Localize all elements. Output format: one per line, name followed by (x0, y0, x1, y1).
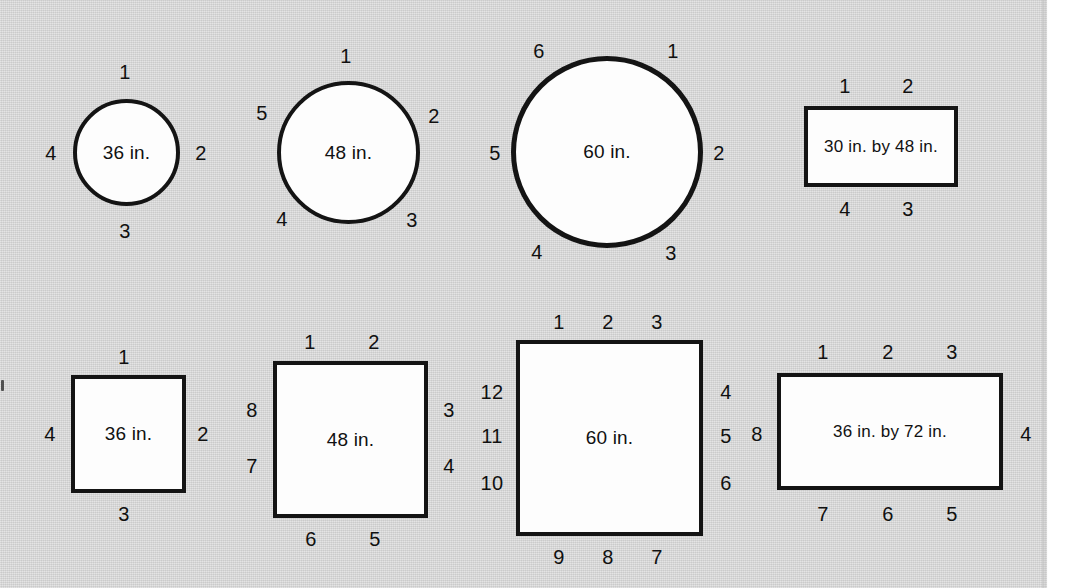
seat-number: 4 (531, 242, 542, 262)
seat-number: 2 (602, 312, 613, 332)
seat-number: 5 (489, 143, 500, 163)
seat-number: 4 (720, 382, 731, 402)
table-size-label: 60 in. (520, 428, 699, 449)
seat-number: 1 (817, 342, 828, 362)
seat-number: 7 (246, 456, 257, 476)
table-size-label: 60 in. (516, 142, 698, 163)
seat-number: 2 (428, 106, 439, 126)
seat-number: 3 (651, 312, 662, 332)
seat-number: 4 (276, 209, 287, 229)
diagram-page: 36 in. 1 2 3 4 48 in. 1 2 3 4 5 60 in. 1… (0, 0, 1074, 588)
seat-number: 3 (119, 221, 130, 241)
seat-number: 11 (481, 426, 502, 446)
seat-number: 7 (817, 504, 828, 524)
seat-number: 2 (713, 143, 724, 163)
seat-number: 6 (305, 529, 316, 549)
table-shape-round-36: 36 in. (73, 99, 180, 206)
table-shape-round-48: 48 in. (277, 81, 420, 224)
seat-number: 2 (882, 342, 893, 362)
seat-number: 4 (443, 456, 454, 476)
paper-edge-shadow (1042, 0, 1048, 588)
seat-number: 1 (119, 62, 130, 82)
seat-number: 8 (602, 547, 613, 567)
table-size-label: 36 in. by 72 in. (781, 422, 999, 441)
seat-number: 2 (368, 332, 379, 352)
seat-number: 4 (44, 424, 55, 444)
seat-number: 1 (553, 312, 564, 332)
seat-number: 1 (340, 46, 351, 66)
seat-number: 8 (246, 400, 257, 420)
seat-number: 5 (369, 529, 380, 549)
seat-number: 1 (118, 347, 129, 367)
table-size-label: 30 in. by 48 in. (808, 137, 954, 156)
seat-number: 2 (195, 143, 206, 163)
seat-number: 2 (197, 424, 208, 444)
seat-number: 5 (720, 426, 731, 446)
seat-number: 2 (902, 76, 913, 96)
seat-number: 5 (256, 103, 267, 123)
seat-number: 6 (882, 504, 893, 524)
table-shape-square-60: 60 in. (516, 340, 703, 536)
seat-number: 3 (665, 243, 676, 263)
table-size-label: 36 in. (77, 142, 176, 163)
table-shape-rect-36x72: 36 in. by 72 in. (777, 373, 1003, 490)
seat-number: 10 (481, 473, 504, 493)
seat-number: 1 (667, 41, 678, 61)
seat-number: 12 (481, 382, 504, 402)
seat-number: 4 (45, 143, 56, 163)
seat-number: 5 (946, 504, 957, 524)
seat-number: 4 (1020, 424, 1031, 444)
scanner-speck-artifact (1, 380, 4, 391)
table-size-label: 48 in. (277, 429, 424, 450)
seat-number: 3 (118, 504, 129, 524)
seat-number: 4 (839, 199, 850, 219)
seat-number: 6 (533, 41, 544, 61)
table-shape-round-60: 60 in. (511, 56, 703, 248)
seat-number: 3 (443, 400, 454, 420)
seat-number: 3 (946, 342, 957, 362)
seat-number: 3 (406, 210, 417, 230)
seat-number: 1 (839, 76, 850, 96)
table-size-label: 36 in. (75, 424, 182, 445)
table-shape-square-36: 36 in. (71, 375, 186, 493)
table-shape-rect-30x48: 30 in. by 48 in. (804, 106, 958, 187)
seat-number: 8 (751, 424, 762, 444)
seat-number: 6 (720, 473, 731, 493)
table-shape-square-48: 48 in. (273, 361, 428, 518)
seat-number: 7 (651, 547, 662, 567)
seat-number: 1 (304, 332, 315, 352)
table-size-label: 48 in. (281, 142, 416, 163)
seat-number: 9 (553, 547, 564, 567)
seat-number: 3 (902, 199, 913, 219)
